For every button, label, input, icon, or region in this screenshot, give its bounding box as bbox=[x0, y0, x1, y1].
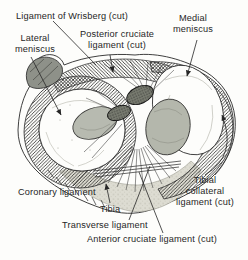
label-medial-meniscus: Medial meniscus bbox=[167, 13, 219, 35]
label-tibial-collateral: Tibial collateral ligament (cut) bbox=[167, 175, 243, 208]
label-transverse-ligament: Transverse ligament bbox=[62, 220, 148, 231]
label-tibia: Tibia bbox=[100, 204, 120, 215]
label-anterior-cruciate: Anterior cruciate ligament (cut) bbox=[87, 234, 217, 245]
label-coronary-ligament: Coronary ligament bbox=[18, 187, 96, 198]
label-posterior-cruciate: Posterior cruciate ligament (cut) bbox=[68, 29, 166, 51]
anatomy-figure: Ligament of Wrisberg (cut) Lateral menis… bbox=[0, 0, 248, 260]
label-lateral-meniscus: Lateral meniscus bbox=[8, 33, 62, 55]
label-ligament-of-wrisberg: Ligament of Wrisberg (cut) bbox=[16, 11, 128, 22]
